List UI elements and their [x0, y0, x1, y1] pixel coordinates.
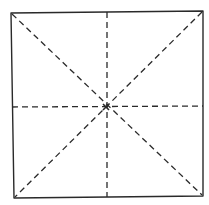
folded-square-diagram [0, 0, 209, 205]
diagram-canvas [0, 0, 209, 205]
fold-lines [12, 12, 203, 197]
